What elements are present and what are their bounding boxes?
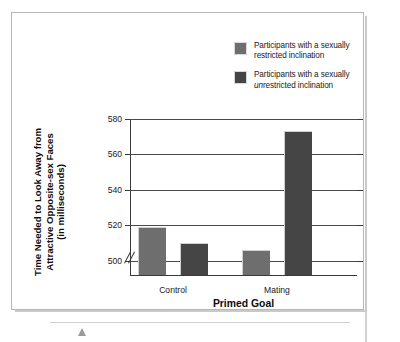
y-tick-right-540 xyxy=(357,190,363,191)
y-tick-label-520: 520 xyxy=(108,220,122,230)
legend-item-restricted: Participants with a sexually restricted … xyxy=(234,41,394,61)
legend-label-restricted-line1: Participants with a sexually xyxy=(254,41,350,50)
x-axis-line xyxy=(130,275,357,276)
y-tick-label-560: 560 xyxy=(108,149,122,159)
y-axis-title-line1: Time Needed to Look Away from xyxy=(32,128,43,276)
legend-label-unrestricted-prefix: un xyxy=(254,81,263,90)
y-axis-title: Time Needed to Look Away from Attractive… xyxy=(32,109,67,295)
x-tick-label-mating: Mating xyxy=(264,285,290,295)
x-tick-label-control: Control xyxy=(159,285,187,295)
y-axis-title-line3: (in milliseconds) xyxy=(55,164,66,240)
bar-control-unrestricted xyxy=(180,243,208,275)
y-tick-right-500 xyxy=(357,261,363,262)
gridline-580 xyxy=(130,119,357,120)
page-bottom-rule xyxy=(50,322,350,323)
gridline-540 xyxy=(130,190,357,191)
gridline-560 xyxy=(130,154,357,155)
y-tick-label-500: 500 xyxy=(108,256,122,266)
axis-break-icon xyxy=(125,251,136,264)
legend-swatch-unrestricted xyxy=(234,71,247,84)
y-tick-right-580 xyxy=(357,119,363,120)
legend-swatch-restricted xyxy=(234,42,247,55)
y-tick-500 xyxy=(125,261,130,262)
legend-label-unrestricted-line2: restricted inclination xyxy=(263,81,333,90)
y-tick-520 xyxy=(125,225,130,226)
frame-shadow-right xyxy=(365,16,367,312)
legend-label-restricted-line2: restricted inclination xyxy=(254,51,324,60)
y-axis-title-line2: Attractive Opposite-sex Faces xyxy=(44,133,55,271)
y-tick-580 xyxy=(125,119,130,120)
bar-control-restricted xyxy=(138,227,166,275)
frame-shadow-bottom xyxy=(15,310,367,312)
legend-item-unrestricted: Participants with a sexually unrestricte… xyxy=(234,70,394,90)
chart-legend: Participants with a sexually restricted … xyxy=(234,41,394,100)
y-tick-560 xyxy=(125,154,130,155)
bar-mating-restricted xyxy=(242,250,270,275)
bar-mating-unrestricted xyxy=(284,131,312,275)
legend-label-unrestricted-line1: Participants with a sexually xyxy=(254,70,350,79)
figure-frame: Participants with a sexually restricted … xyxy=(11,12,364,310)
y-tick-right-560 xyxy=(357,154,363,155)
plot-area: 500520540560580 ControlMating xyxy=(130,119,357,275)
y-tick-right-520 xyxy=(357,225,363,226)
y-tick-label-580: 580 xyxy=(108,114,122,124)
page-marker-icon xyxy=(78,328,86,336)
y-tick-540 xyxy=(125,190,130,191)
legend-label-unrestricted: Participants with a sexually unrestricte… xyxy=(254,70,350,90)
legend-label-restricted: Participants with a sexually restricted … xyxy=(254,41,350,61)
x-axis-title: Primed Goal xyxy=(130,298,357,309)
page-edge-line xyxy=(365,312,367,342)
y-tick-label-540: 540 xyxy=(108,185,122,195)
